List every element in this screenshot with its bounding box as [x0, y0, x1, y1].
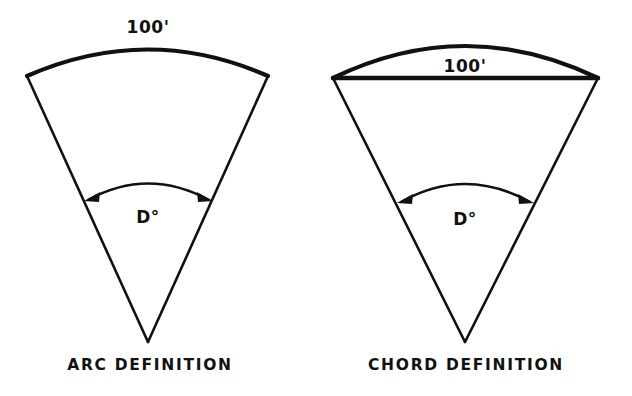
arc-definition-caption: ARC DEFINITION — [67, 356, 233, 374]
curve-definition-diagram: 100' D° ARC DEFINITION 100' D° CHORD DEF… — [0, 0, 632, 396]
chord-definition-dimension-label: 100' — [443, 56, 486, 76]
arc-definition-dimension-label: 100' — [126, 17, 169, 37]
chord-definition-caption: CHORD DEFINITION — [368, 356, 564, 374]
arc-definition-angle-label: D° — [136, 207, 160, 227]
chord-definition-angle-label: D° — [453, 209, 477, 229]
